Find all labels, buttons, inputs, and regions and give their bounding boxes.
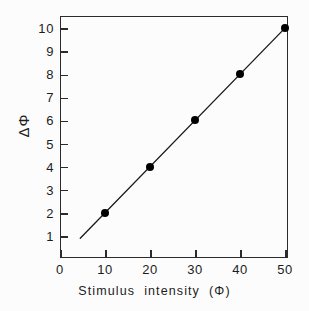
y-tick xyxy=(61,167,68,168)
x-tick xyxy=(60,250,61,257)
y-tick xyxy=(61,51,68,52)
y-tick-label: 8 xyxy=(46,67,54,82)
x-tick xyxy=(150,250,151,257)
y-tick-label: 5 xyxy=(46,136,54,151)
y-tick-label: 9 xyxy=(46,44,54,59)
y-axis-label: ΔΦ xyxy=(15,116,32,138)
y-tick-label: 7 xyxy=(46,90,54,105)
y-tick xyxy=(61,75,68,76)
x-tick-label: 30 xyxy=(187,262,203,277)
y-tick-label: 4 xyxy=(46,159,54,174)
data-point xyxy=(281,24,289,32)
plot-frame xyxy=(60,16,288,258)
x-tick xyxy=(240,250,241,257)
y-tick-label: 6 xyxy=(46,113,54,128)
data-point xyxy=(101,209,109,217)
y-tick-label: 1 xyxy=(46,229,54,244)
y-tick-label: 2 xyxy=(46,205,54,220)
y-tick xyxy=(61,190,68,191)
y-tick xyxy=(61,121,68,122)
x-tick-label: 0 xyxy=(56,262,64,277)
y-tick xyxy=(61,236,68,237)
y-tick xyxy=(61,28,68,29)
figure-canvas: ΔΦ 0102030405012345678910 Stimulus inten… xyxy=(0,0,309,311)
x-tick-label: 50 xyxy=(277,262,293,277)
x-tick xyxy=(105,250,106,257)
x-axis-label: Stimulus intensity (Φ) xyxy=(0,284,309,298)
y-tick xyxy=(61,98,68,99)
x-tick-label: 40 xyxy=(232,262,248,277)
x-tick xyxy=(285,250,286,257)
y-tick xyxy=(61,144,68,145)
x-tick-label: 20 xyxy=(142,262,158,277)
x-tick xyxy=(195,250,196,257)
data-point xyxy=(146,163,154,171)
y-tick-label: 10 xyxy=(38,21,54,36)
x-tick-label: 10 xyxy=(97,262,113,277)
y-tick xyxy=(61,213,68,214)
y-tick-label: 3 xyxy=(46,182,54,197)
